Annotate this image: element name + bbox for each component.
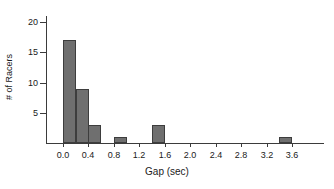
plot-area: 20 15 10 5 0.0 0.4 0.8 1.2 1.6 2.0 2.4 2… bbox=[0, 0, 334, 189]
x-tick-mark-7 bbox=[241, 143, 242, 147]
y-tick-mark-20 bbox=[40, 22, 47, 23]
y-tick-mark-15 bbox=[40, 52, 47, 53]
x-axis-title: Gap (sec) bbox=[0, 166, 334, 177]
x-tick-mark-8 bbox=[267, 143, 268, 147]
histogram-bar bbox=[88, 125, 101, 143]
x-tick-mark-6 bbox=[216, 143, 217, 147]
x-tick-mark-0 bbox=[63, 143, 64, 147]
x-tick-mark-4 bbox=[165, 143, 166, 147]
y-tick-mark-5 bbox=[40, 113, 47, 114]
y-tick-label-20: 20 bbox=[8, 18, 38, 27]
histogram-bar bbox=[279, 137, 292, 143]
y-axis-line bbox=[46, 16, 47, 144]
x-tick-mark-9 bbox=[292, 143, 293, 147]
y-tick-mark-10 bbox=[40, 83, 47, 84]
histogram-bar bbox=[114, 137, 127, 143]
x-tick-mark-1 bbox=[88, 143, 89, 147]
x-tick-mark-2 bbox=[114, 143, 115, 147]
x-tick-mark-5 bbox=[190, 143, 191, 147]
histogram-bar bbox=[63, 40, 76, 143]
x-tick-label-9: 3.6 bbox=[277, 150, 307, 160]
histogram-figure: 20 15 10 5 0.0 0.4 0.8 1.2 1.6 2.0 2.4 2… bbox=[0, 0, 334, 189]
x-tick-mark-3 bbox=[139, 143, 140, 147]
histogram-bar bbox=[152, 125, 165, 143]
y-axis-title: # of Racers bbox=[4, 37, 14, 117]
